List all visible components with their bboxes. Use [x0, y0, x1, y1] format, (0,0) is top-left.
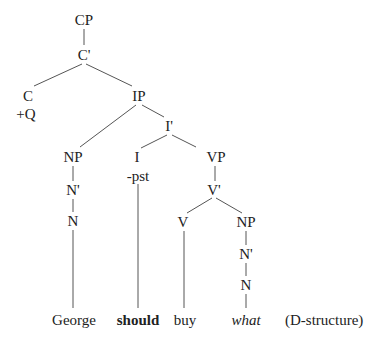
node-v-bar: V'	[207, 183, 221, 198]
node-ip: IP	[132, 89, 145, 104]
word-buy: buy	[174, 313, 197, 328]
word-should: should	[117, 313, 160, 328]
tree-branches	[0, 0, 381, 343]
branch-ibar-i	[141, 135, 167, 148]
branch-vbar-v	[187, 198, 212, 213]
node-c-feature: +Q	[16, 107, 35, 122]
node-i-bar: I'	[165, 119, 173, 134]
node-c-bar: C'	[78, 48, 91, 63]
node-np-object: NP	[236, 215, 255, 230]
node-i-feature: -pst	[127, 169, 150, 184]
node-v: V	[178, 215, 189, 230]
node-cp: CP	[75, 13, 93, 28]
node-vp: VP	[206, 150, 225, 165]
node-n-object: N	[241, 278, 252, 293]
branch-vbar-np	[216, 198, 242, 213]
branch-ip-ibar	[142, 105, 164, 117]
word-what: what	[231, 313, 260, 328]
word-george: George	[52, 313, 96, 328]
node-c: C	[23, 89, 33, 104]
caption-d-structure: (D-structure)	[285, 313, 363, 328]
branch-cbar-c	[34, 64, 82, 86]
node-n-subject: N	[68, 214, 79, 229]
node-n-bar-subject: N'	[66, 183, 80, 198]
node-i: I	[135, 150, 140, 165]
node-n-bar-object: N'	[239, 247, 253, 262]
branch-ip-np	[80, 105, 136, 147]
node-np-subject: NP	[63, 150, 82, 165]
branch-ibar-vp	[172, 135, 196, 147]
branch-cbar-ip	[86, 64, 132, 86]
